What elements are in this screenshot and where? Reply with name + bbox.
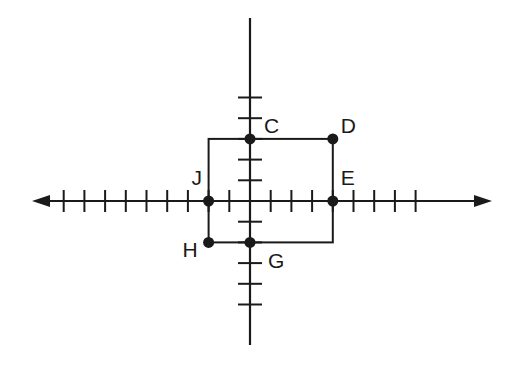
point-dot-icon (203, 237, 214, 248)
point-label-c: C (264, 114, 279, 137)
coordinate-plane: CDJEHG (0, 0, 515, 371)
point-d: D (327, 114, 356, 145)
point-h: H (183, 237, 215, 262)
point-dot-icon (327, 196, 338, 207)
point-label-j: J (192, 166, 203, 189)
arrow-right-icon (474, 195, 492, 207)
point-dot-icon (327, 133, 338, 144)
point-label-g: G (268, 249, 284, 272)
point-dot-icon (245, 237, 256, 248)
arrow-left-icon (32, 195, 50, 207)
point-dot-icon (245, 133, 256, 144)
point-dot-icon (203, 196, 214, 207)
axes (32, 18, 492, 345)
coordinate-plane-diagram: CDJEHG (0, 0, 515, 371)
point-label-e: E (341, 166, 355, 189)
point-label-h: H (183, 238, 198, 261)
point-label-d: D (341, 114, 356, 137)
